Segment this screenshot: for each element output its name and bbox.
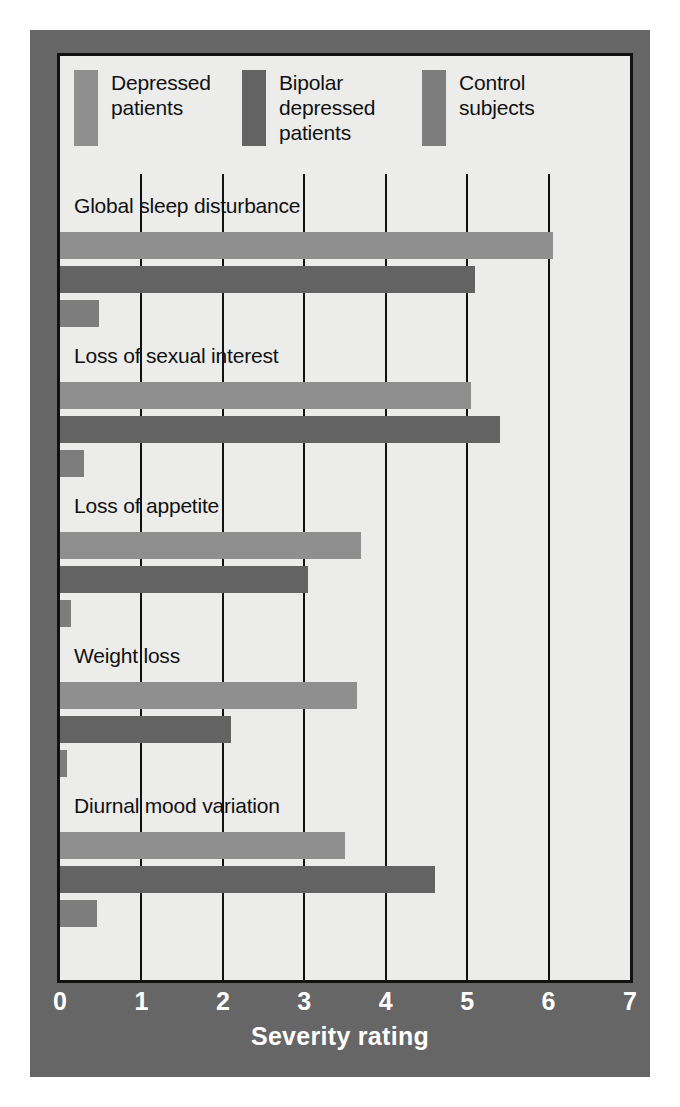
x-tick-5: 5 (460, 986, 474, 1016)
legend-swatch-bipolar-depressed-patients (242, 70, 266, 146)
x-tick-0: 0 (53, 986, 67, 1016)
bar (60, 450, 84, 477)
bar (60, 266, 475, 293)
bar-group-label: Global sleep disturbance (74, 194, 300, 218)
bar (60, 566, 308, 593)
bar-group-label: Weight loss (74, 644, 180, 668)
bar (60, 300, 99, 327)
bar (60, 866, 435, 893)
legend-item-control-subjects: Control subjects (422, 70, 534, 146)
x-tick-7: 7 (623, 986, 637, 1016)
bar (60, 716, 231, 743)
chart-plot-panel: Depressed patients Bipolar depressed pat… (57, 53, 633, 983)
bar (60, 382, 471, 409)
x-tick-2: 2 (216, 986, 230, 1016)
legend-swatch-control-subjects (422, 70, 446, 146)
x-axis-tick-labels: 01234567 (57, 986, 633, 1020)
chart-legend: Depressed patients Bipolar depressed pat… (60, 56, 630, 174)
bar (60, 232, 553, 259)
legend-label-depressed-patients: Depressed patients (111, 70, 211, 120)
bar-group-label: Loss of sexual interest (74, 344, 278, 368)
legend-label-control-subjects: Control subjects (459, 70, 534, 120)
bar (60, 416, 500, 443)
bar-group-label: Diurnal mood variation (74, 794, 280, 818)
x-tick-3: 3 (297, 986, 311, 1016)
x-tick-4: 4 (379, 986, 393, 1016)
bar-group-1: Loss of sexual interest (60, 336, 630, 486)
bar-group-0: Global sleep disturbance (60, 186, 630, 336)
bar (60, 600, 71, 627)
bar-group-2: Loss of appetite (60, 486, 630, 636)
legend-label-bipolar-depressed-patients: Bipolar depressed patients (279, 70, 375, 145)
bar-group-4: Diurnal mood variation (60, 786, 630, 936)
x-tick-6: 6 (542, 986, 556, 1016)
bar (60, 750, 67, 777)
chart-figure-frame: Depressed patients Bipolar depressed pat… (30, 30, 650, 1077)
legend-item-depressed-patients: Depressed patients (74, 70, 211, 146)
x-tick-1: 1 (134, 986, 148, 1016)
legend-item-bipolar-depressed-patients: Bipolar depressed patients (242, 70, 375, 146)
chart-plot-area: Global sleep disturbanceLoss of sexual i… (60, 174, 630, 980)
legend-swatch-depressed-patients (74, 70, 98, 146)
bar-group-3: Weight loss (60, 636, 630, 786)
bar (60, 832, 345, 859)
x-axis-title: Severity rating (30, 1022, 650, 1051)
bar (60, 532, 361, 559)
bar-group-label: Loss of appetite (74, 494, 219, 518)
bar (60, 900, 97, 927)
bar (60, 682, 357, 709)
